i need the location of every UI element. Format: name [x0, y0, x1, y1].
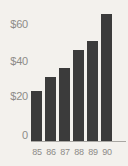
bar-86	[45, 77, 56, 141]
x-axis-line	[31, 141, 126, 142]
x-tick-label-89: 89	[86, 147, 100, 157]
x-axis: 85 86 87 88 89 90	[31, 147, 128, 159]
x-tick-label-85: 85	[30, 147, 44, 157]
bar-90	[101, 14, 112, 141]
bar-chart: $60 $40 $20 0 85 86 87 88 89 90	[0, 0, 128, 166]
bar-85	[31, 91, 42, 141]
bar-89	[87, 41, 98, 141]
y-tick-label-0: 0	[22, 130, 28, 141]
x-tick-label-88: 88	[72, 147, 86, 157]
x-tick-label-87: 87	[58, 147, 72, 157]
x-tick-label-86: 86	[44, 147, 58, 157]
y-tick-label-60: $60	[10, 19, 28, 30]
x-tick-label-90: 90	[100, 147, 114, 157]
y-tick-label-20: $20	[10, 91, 28, 102]
bar-87	[59, 68, 70, 141]
y-axis: $60 $40 $20 0	[0, 0, 30, 166]
y-tick-label-40: $40	[10, 56, 28, 67]
bars-layer	[31, 0, 128, 141]
plot-area: 85 86 87 88 89 90	[31, 0, 128, 166]
bar-88	[73, 50, 84, 141]
